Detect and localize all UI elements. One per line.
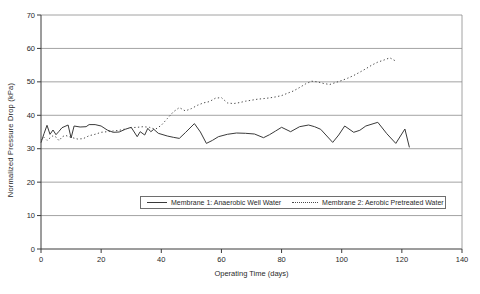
y-tick-label: 0 (31, 245, 35, 254)
x-tick-label: 80 (277, 255, 285, 264)
x-tick-label: 0 (39, 255, 43, 264)
y-axis-title: Normalized Pressure Drop (kPa) (6, 83, 15, 197)
legend-entry-membrane-2: Membrane 2: Aerobic Pretreated Water (292, 199, 444, 206)
solid-line-swatch-icon (147, 202, 167, 203)
legend: Membrane 1: Anaerobic Well Water Membran… (140, 196, 446, 209)
x-tick-label: 140 (456, 255, 469, 264)
series-line-1 (41, 122, 409, 147)
x-tick-label: 40 (157, 255, 165, 264)
y-tick-label: 60 (27, 44, 35, 53)
y-tick-label: 30 (27, 144, 35, 153)
y-tick-label: 20 (27, 178, 35, 187)
y-tick-label: 70 (27, 11, 35, 20)
legend-label-membrane-1: Membrane 1: Anaerobic Well Water (171, 199, 281, 206)
x-tick-label: 60 (217, 255, 225, 264)
y-tick-label: 50 (27, 77, 35, 86)
x-tick-label: 20 (97, 255, 105, 264)
legend-label-membrane-2: Membrane 2: Aerobic Pretreated Water (322, 199, 444, 206)
legend-entry-membrane-1: Membrane 1: Anaerobic Well Water (147, 199, 281, 206)
chart-plot-canvas: 010203040506070020406080100120140 (0, 0, 480, 294)
y-tick-label: 40 (27, 111, 35, 120)
dotted-line-swatch-icon (292, 202, 318, 203)
series-line-2 (41, 58, 396, 141)
x-tick-label: 100 (335, 255, 348, 264)
x-tick-label: 120 (396, 255, 409, 264)
x-axis-title: Operating Time (days) (41, 269, 462, 278)
y-tick-label: 10 (27, 211, 35, 220)
pressure-drop-line-chart: 010203040506070020406080100120140 Normal… (0, 0, 480, 294)
